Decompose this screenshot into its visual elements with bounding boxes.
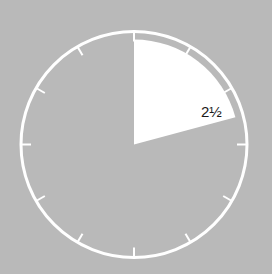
- hour-tick: [36, 196, 45, 201]
- sector-label: 2½: [201, 103, 222, 120]
- hour-tick: [186, 234, 191, 243]
- clock-diagram: [0, 0, 272, 274]
- hour-tick: [78, 234, 83, 243]
- hour-tick: [36, 88, 45, 93]
- hour-tick: [223, 196, 232, 201]
- time-sector: [134, 40, 235, 145]
- hour-tick: [78, 47, 83, 56]
